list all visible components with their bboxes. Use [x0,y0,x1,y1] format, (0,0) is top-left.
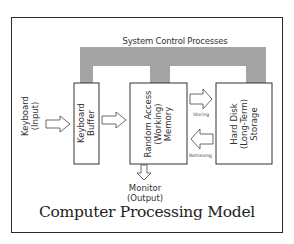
keyboard-input-label: Keyboard (Input) [20,86,40,146]
keyboard-buffer-label: Keyboard Buffer [76,93,96,153]
hard-disk-label: Hard Disk (Long-Term) Storage [229,84,259,164]
retrieving-label: Retrieving [189,153,212,158]
buffer-to-ram-arrow-icon [102,112,126,128]
diagram-title: Computer Processing Model [11,203,283,221]
output-arrow-icon [137,165,151,180]
monitor-label: Monitor (Output) [110,183,180,203]
storing-label: Storing [193,112,209,117]
system-control-bar [80,47,266,83]
storing-arrow-icon [190,89,212,109]
ram-label: Random Access (Working) Memory [143,84,173,164]
input-arrow-icon [46,116,70,132]
retrieving-arrow-icon [191,129,213,149]
system-control-label: System Control Processes [100,36,250,46]
